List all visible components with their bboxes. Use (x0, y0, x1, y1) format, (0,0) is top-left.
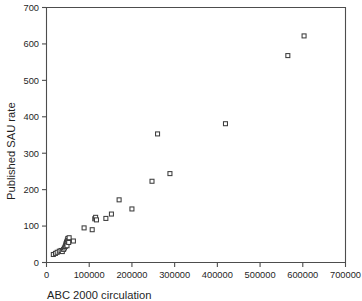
x-tick-label: 700000 (330, 270, 361, 280)
y-tick-label: 600 (23, 39, 39, 49)
x-axis-tick-labels: 0100000200000300000400000500000600000700… (44, 270, 361, 280)
data-point (109, 212, 113, 216)
y-tick-label: 500 (23, 76, 39, 86)
scatter-chart-figure: 0100000200000300000400000500000600000700… (0, 0, 362, 301)
data-point (117, 198, 121, 202)
y-tick-label: 700 (23, 3, 39, 13)
data-point (67, 240, 71, 244)
data-point (223, 122, 227, 126)
y-tick-label: 400 (23, 112, 39, 122)
y-tick-label: 100 (23, 221, 39, 231)
y-tick-label: 200 (23, 185, 39, 195)
x-tick-label: 400000 (202, 270, 233, 280)
data-point (71, 239, 75, 243)
data-point (156, 132, 160, 136)
data-point (90, 228, 94, 232)
data-point (286, 54, 290, 58)
data-point (82, 226, 86, 230)
data-point (67, 236, 71, 240)
x-tick-label: 300000 (159, 270, 190, 280)
data-point (94, 218, 98, 222)
x-tick-label: 100000 (74, 270, 105, 280)
x-tick-label: 0 (44, 270, 49, 280)
x-tick-label: 200000 (116, 270, 147, 280)
y-axis-label: Published SAU rate (5, 102, 17, 200)
scatter-plot-canvas: 0100000200000300000400000500000600000700… (0, 0, 362, 301)
x-tick-label: 600000 (287, 270, 318, 280)
x-tick-label: 500000 (245, 270, 276, 280)
data-point (104, 216, 108, 220)
data-point (130, 207, 134, 211)
data-point (302, 34, 306, 38)
data-point (150, 179, 154, 183)
y-tick-label: 0 (34, 258, 39, 268)
x-axis-label: ABC 2000 circulation (47, 289, 151, 301)
data-point (168, 172, 172, 176)
y-tick-label: 300 (23, 149, 39, 159)
